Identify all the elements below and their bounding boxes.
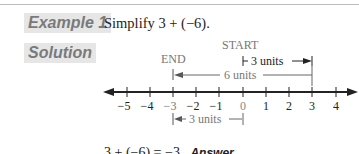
arrow-label-3-units-top: 3 units bbox=[251, 54, 284, 68]
svg-text:2: 2 bbox=[286, 99, 292, 113]
svg-text:−2: −2 bbox=[187, 99, 200, 113]
start-label: START bbox=[222, 38, 259, 52]
svg-text:1: 1 bbox=[263, 99, 269, 113]
svg-text:3: 3 bbox=[309, 99, 315, 113]
result-line: 3 + (−6) = −3 Answer bbox=[104, 145, 234, 154]
tick-labels: −5 −4 −3 −2 −1 0 1 2 3 4 bbox=[118, 99, 339, 113]
number-line-diagram: START END 3 units 6 units −5 −4 −3 −2 −1… bbox=[0, 0, 359, 154]
answer-tag: Answer bbox=[190, 146, 233, 154]
svg-text:−4: −4 bbox=[141, 99, 154, 113]
arrow-label-3-units-bottom: 3 units bbox=[189, 112, 222, 126]
arrow-label-6-units: 6 units bbox=[224, 68, 257, 82]
svg-text:4: 4 bbox=[333, 99, 339, 113]
svg-text:−3: −3 bbox=[164, 99, 177, 113]
svg-text:−1: −1 bbox=[210, 99, 223, 113]
left-arrowhead bbox=[103, 88, 114, 96]
end-label: END bbox=[161, 52, 186, 66]
right-arrowhead bbox=[347, 88, 358, 96]
svg-text:−5: −5 bbox=[118, 99, 131, 113]
svg-text:0: 0 bbox=[240, 99, 246, 113]
result-equation: 3 + (−6) = −3 bbox=[104, 145, 180, 154]
